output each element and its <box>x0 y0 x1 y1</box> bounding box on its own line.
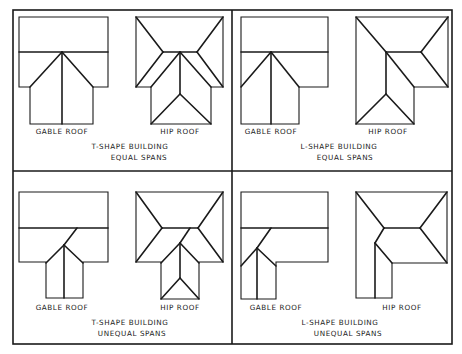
span-label: UNEQUAL SPANS <box>314 329 382 338</box>
hip-line <box>420 228 447 263</box>
gable-roof-label: GABLE ROOF <box>36 127 89 136</box>
roof-plans-diagram: GABLE ROOF HIP ROOF T-SHAPE BUILDING EQU… <box>0 0 462 354</box>
panel-t-shape-unequal-spans: GABLE ROOF HIP ROOF T-SHAPE BUILDING UNE… <box>19 192 223 338</box>
t-unequal-hip-roof-plan <box>136 192 223 299</box>
gable-line <box>241 52 271 87</box>
hip-roof-label: HIP ROOF <box>160 303 199 312</box>
hip-line <box>136 52 163 87</box>
hip-line <box>151 94 180 124</box>
panel-l-shape-unequal-spans: GABLE ROOF HIP ROOF L-SHAPE BUILDING UNE… <box>241 192 447 338</box>
l-unequal-hip-roof-plan <box>356 192 447 298</box>
valley-extension <box>257 228 271 248</box>
hip-line <box>356 94 386 124</box>
valley-right <box>180 243 199 263</box>
valley-extension <box>180 228 190 243</box>
hip-line <box>421 52 448 87</box>
hip-line <box>136 228 162 262</box>
panel-t-shape-equal-spans: GABLE ROOF HIP ROOF T-SHAPE BUILDING EQU… <box>19 17 223 162</box>
hip-line <box>136 192 162 228</box>
span-label: EQUAL SPANS <box>111 153 168 162</box>
valley <box>257 248 276 266</box>
hip-roof-label: HIP ROOF <box>160 127 199 136</box>
hip-roof-label: HIP ROOF <box>382 303 421 312</box>
gable-line <box>241 248 257 266</box>
building-label: L-SHAPE BUILDING <box>300 142 377 151</box>
hip-line <box>198 228 223 262</box>
valley-left <box>30 52 62 87</box>
valley-left <box>151 52 180 87</box>
span-label: EQUAL SPANS <box>317 153 374 162</box>
hip-line <box>136 17 163 52</box>
t-unequal-gable-roof-plan <box>19 192 108 298</box>
valley-left <box>161 243 180 263</box>
l-unequal-gable-roof-plan <box>241 192 328 299</box>
valley-right <box>62 52 93 87</box>
building-label: T-SHAPE BUILDING <box>91 318 169 327</box>
valley-right <box>64 245 83 263</box>
valley <box>386 52 414 87</box>
l-equal-hip-roof-plan <box>356 17 448 124</box>
hip-line <box>161 278 180 299</box>
l-equal-gable-roof-plan <box>241 17 328 124</box>
building-label: T-SHAPE BUILDING <box>91 142 169 151</box>
hip-line <box>198 192 223 228</box>
valley-extension <box>375 228 384 243</box>
hip-line <box>197 52 223 87</box>
panel-l-shape-equal-spans: GABLE ROOF HIP ROOF L-SHAPE BUILDING EQU… <box>241 17 448 162</box>
gable-roof-label: GABLE ROOF <box>250 303 303 312</box>
hip-line <box>356 17 386 52</box>
t-equal-hip-roof-plan <box>136 17 223 124</box>
valley <box>375 243 392 263</box>
gable-roof-label: GABLE ROOF <box>36 303 89 312</box>
valley-extension <box>64 228 77 245</box>
hip-roof-label: HIP ROOF <box>368 127 407 136</box>
hip-line <box>180 94 211 124</box>
hip-line <box>420 192 447 228</box>
hip-line <box>421 17 448 52</box>
hip-line <box>386 94 414 124</box>
valley-right <box>180 52 211 87</box>
span-label: UNEQUAL SPANS <box>98 329 166 338</box>
gable-roof-label: GABLE ROOF <box>245 127 298 136</box>
t-equal-gable-roof-plan <box>19 17 108 124</box>
valley <box>271 52 299 87</box>
valley-left <box>46 245 64 263</box>
hip-line <box>180 278 199 299</box>
hip-line <box>356 192 384 228</box>
building-label: L-SHAPE BUILDING <box>301 318 378 327</box>
hip-line <box>197 17 223 52</box>
building-outline <box>241 17 328 124</box>
building-outline <box>241 192 328 299</box>
building-outline <box>19 17 108 124</box>
